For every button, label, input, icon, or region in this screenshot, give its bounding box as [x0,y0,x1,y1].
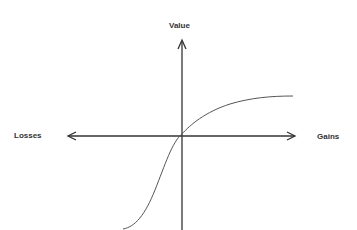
y-axis-label: Value [169,22,190,30]
x-axis-negative-label: Losses [14,132,42,140]
value-function-diagram [0,0,357,230]
value-curve [123,96,293,229]
x-axis-positive-label: Gains [317,133,339,141]
